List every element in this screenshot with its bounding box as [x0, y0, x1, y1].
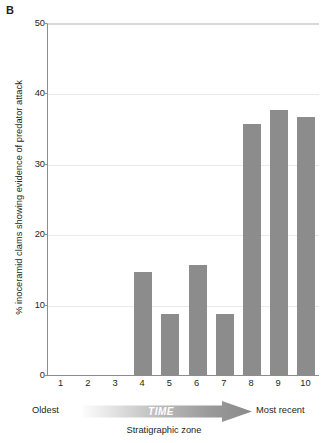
bar: [243, 124, 261, 375]
label-oldest: Oldest: [32, 405, 59, 416]
y-tick-label: 0: [15, 371, 45, 380]
x-tick-label: 5: [155, 378, 183, 389]
y-tick-label: 20: [15, 230, 45, 239]
bar: [297, 117, 315, 375]
y-tick-mark: [44, 164, 47, 165]
bar: [216, 314, 234, 375]
y-tick-label: 30: [15, 160, 45, 169]
label-time: TIME: [82, 406, 240, 417]
y-tick-label: 40: [15, 89, 45, 98]
plot-area: [47, 23, 319, 375]
time-arrow-annotation: Oldest TIME Most recent Stratigraphic zo…: [0, 396, 328, 443]
x-tick-label: 6: [183, 378, 211, 389]
panel-label: B: [6, 4, 14, 16]
x-tick-label: 8: [237, 378, 265, 389]
y-tick-label: 50: [15, 19, 45, 28]
x-tick-label: 10: [291, 378, 319, 389]
y-tick-mark: [44, 305, 47, 306]
x-tick-label: 1: [47, 378, 75, 389]
y-axis-title: % inoceramid clams showing evidence of p…: [14, 33, 25, 363]
bars-group: [48, 24, 319, 375]
x-axis-line: [47, 375, 319, 376]
bar: [134, 272, 152, 375]
bar: [161, 314, 179, 375]
x-tick-label: 2: [74, 378, 102, 389]
x-tick-label: 3: [101, 378, 129, 389]
y-tick-mark: [44, 23, 47, 24]
bar: [270, 110, 288, 375]
bar: [189, 265, 207, 375]
y-tick-mark: [44, 93, 47, 94]
label-most-recent: Most recent: [256, 405, 305, 416]
figure-panel-b: B % inoceramid clams showing evidence of…: [0, 0, 328, 443]
x-axis-caption: Stratigraphic zone: [0, 425, 328, 436]
x-tick-label: 7: [210, 378, 238, 389]
x-tick-label: 9: [264, 378, 292, 389]
y-tick-mark: [44, 234, 47, 235]
x-tick-label: 4: [128, 378, 156, 389]
y-tick-label: 10: [15, 301, 45, 310]
